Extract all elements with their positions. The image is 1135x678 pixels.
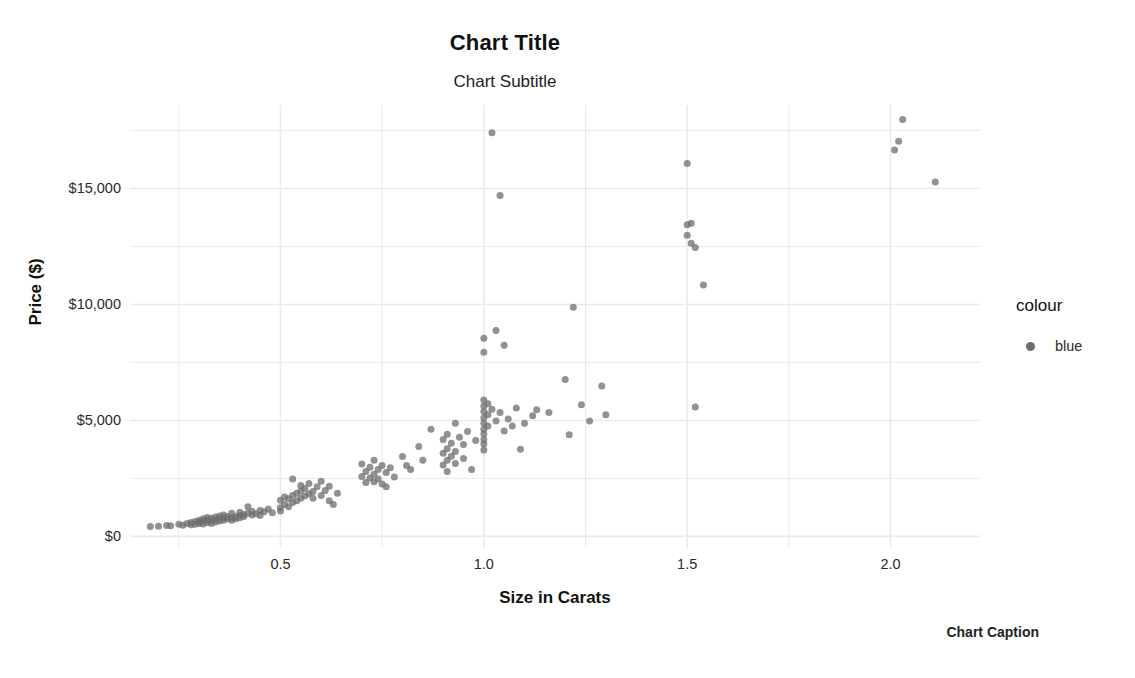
data-point <box>570 304 577 311</box>
plot-panel <box>130 105 980 548</box>
chart-caption: Chart Caption <box>946 624 1039 640</box>
data-point <box>358 461 365 468</box>
data-point <box>684 232 691 239</box>
x-axis-title: Size in Carats <box>130 588 980 608</box>
data-point <box>448 440 455 447</box>
data-point <box>598 383 605 390</box>
data-point <box>562 376 569 383</box>
data-point <box>444 445 451 452</box>
data-point <box>419 457 426 464</box>
x-axis-tick-label: 2.0 <box>880 556 900 572</box>
data-point <box>334 490 341 497</box>
data-point <box>452 420 459 427</box>
data-point <box>310 495 317 502</box>
data-point <box>602 411 609 418</box>
y-axis-tick-label: $10,000 <box>69 296 130 312</box>
data-point <box>444 431 451 438</box>
data-point <box>688 220 695 227</box>
data-point <box>415 443 422 450</box>
legend-item-label: blue <box>1055 338 1082 354</box>
chart-title: Chart Title <box>0 30 1010 56</box>
data-point <box>456 434 463 441</box>
y-axis-tick-label: $15,000 <box>69 180 130 196</box>
data-point <box>289 475 296 482</box>
data-points-layer <box>147 116 939 530</box>
data-point <box>517 446 524 453</box>
data-point <box>529 412 536 419</box>
data-point <box>427 426 434 433</box>
data-point <box>484 411 491 418</box>
data-point <box>464 428 471 435</box>
data-point <box>391 474 398 481</box>
data-point <box>501 342 508 349</box>
data-point <box>452 448 459 455</box>
data-point <box>484 400 491 407</box>
data-point <box>899 116 906 123</box>
data-point <box>167 522 174 529</box>
legend: colour blue <box>1016 296 1135 354</box>
minor-gridlines <box>130 105 980 548</box>
data-point <box>480 436 487 443</box>
plot-svg <box>130 105 980 548</box>
y-axis-tick-label: $5,000 <box>77 412 130 428</box>
x-axis-tick-label: 1.5 <box>677 556 697 572</box>
data-point <box>501 428 508 435</box>
data-point <box>891 147 898 154</box>
legend-title: colour <box>1016 296 1135 316</box>
major-gridlines <box>130 105 980 548</box>
data-point <box>578 401 585 408</box>
data-point <box>521 420 528 427</box>
data-point <box>452 460 459 467</box>
data-point <box>371 457 378 464</box>
data-point <box>480 447 487 454</box>
data-point <box>326 483 333 490</box>
data-point <box>586 417 593 424</box>
data-point <box>269 509 276 516</box>
y-axis-tick-labels: $0$5,000$10,000$15,000 <box>0 105 130 548</box>
data-point <box>533 406 540 413</box>
x-axis-tick-label: 1.0 <box>474 556 494 572</box>
data-point <box>407 466 414 473</box>
data-point <box>488 406 495 413</box>
data-point <box>366 464 373 471</box>
data-point <box>480 349 487 356</box>
data-point <box>147 523 154 530</box>
data-point <box>387 464 394 471</box>
legend-entries: blue <box>1016 338 1135 354</box>
data-point <box>566 431 573 438</box>
data-point <box>480 335 487 342</box>
y-axis-title: Price ($) <box>26 212 46 372</box>
data-point <box>460 441 467 448</box>
x-axis-tick-labels: 0.51.01.52.0 <box>130 556 980 578</box>
legend-key-icon <box>1026 342 1035 351</box>
data-point <box>513 404 520 411</box>
data-point <box>155 523 162 530</box>
data-point <box>318 478 325 485</box>
data-point <box>305 480 312 487</box>
data-point <box>484 423 491 430</box>
y-axis-tick-label: $0 <box>105 528 130 544</box>
data-point <box>895 138 902 145</box>
data-point <box>692 403 699 410</box>
data-point <box>472 437 479 444</box>
data-point <box>399 453 406 460</box>
data-point <box>684 160 691 167</box>
chart-subtitle: Chart Subtitle <box>0 72 1010 92</box>
data-point <box>509 423 516 430</box>
data-point <box>692 244 699 251</box>
data-point <box>497 409 504 416</box>
data-point <box>379 462 386 469</box>
data-point <box>460 455 467 462</box>
x-axis-tick-label: 0.5 <box>270 556 290 572</box>
data-point <box>444 468 451 475</box>
data-point <box>330 501 337 508</box>
data-point <box>497 192 504 199</box>
data-point <box>493 327 500 334</box>
data-point <box>383 483 390 490</box>
data-point <box>505 416 512 423</box>
legend-item[interactable]: blue <box>1016 338 1135 354</box>
data-point <box>700 281 707 288</box>
data-point <box>545 409 552 416</box>
data-point <box>932 179 939 186</box>
data-point <box>468 466 475 473</box>
